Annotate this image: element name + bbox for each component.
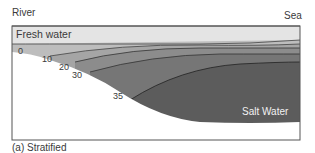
isohaline-label-35: 35 bbox=[113, 92, 123, 101]
isohaline-label-0: 0 bbox=[18, 47, 23, 56]
isohaline-label-10: 10 bbox=[42, 55, 52, 64]
isohaline-label-20: 20 bbox=[59, 63, 69, 72]
estuary-diagram bbox=[0, 0, 315, 153]
sea-label: Sea bbox=[284, 11, 302, 21]
river-label: River bbox=[12, 8, 35, 18]
fresh-water-label: Fresh water bbox=[16, 29, 71, 40]
salt-water-label: Salt Water bbox=[242, 107, 288, 117]
isohaline-label-30: 30 bbox=[72, 71, 82, 80]
caption: (a) Stratified bbox=[12, 143, 66, 153]
